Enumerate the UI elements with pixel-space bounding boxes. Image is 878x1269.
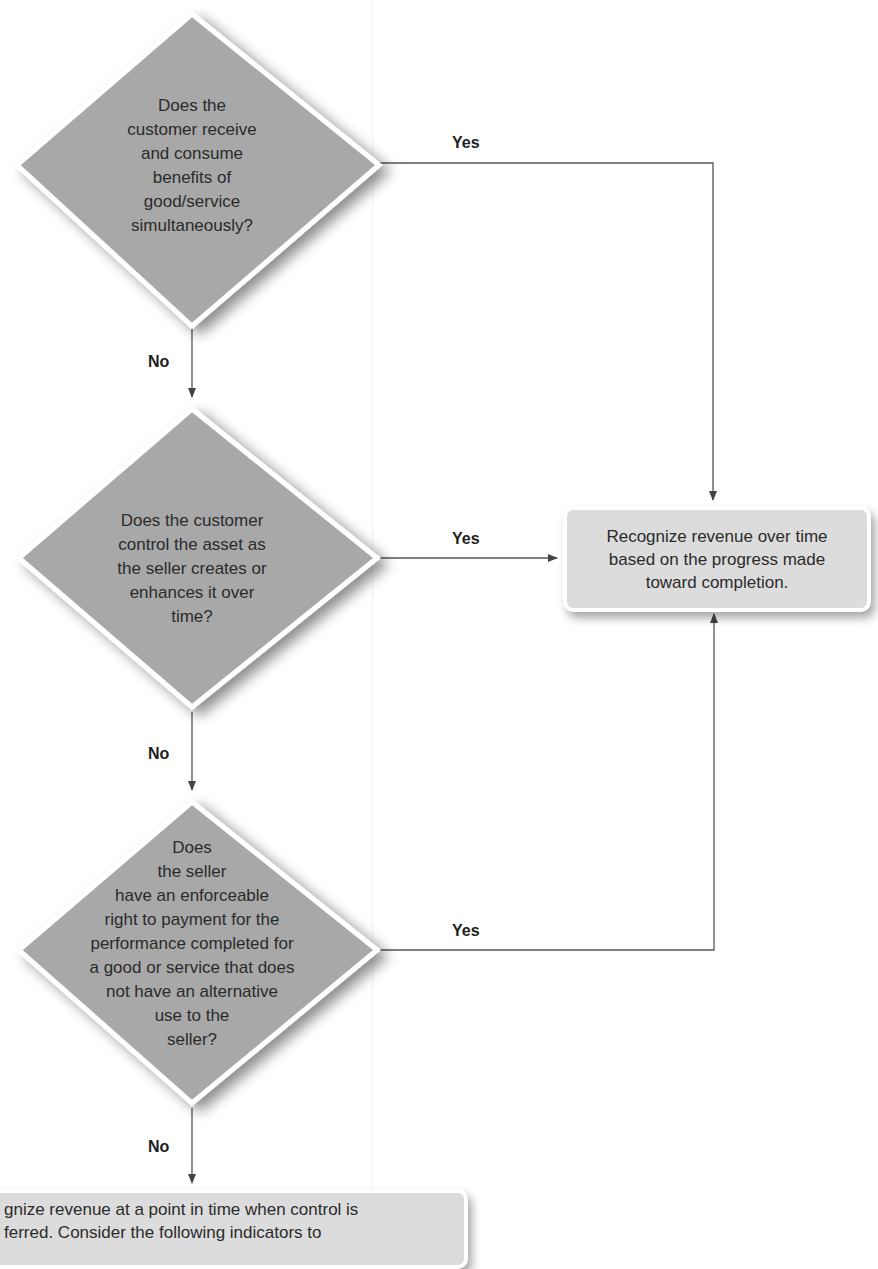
result-line: based on the progress made bbox=[567, 548, 867, 571]
result-line: gnize revenue at a point in time when co… bbox=[4, 1198, 464, 1221]
yes-label-q1: Yes bbox=[452, 134, 480, 152]
point-in-time-result-box: gnize revenue at a point in time when co… bbox=[0, 1189, 468, 1269]
q2-line: time? bbox=[82, 605, 302, 629]
q1-line: good/service bbox=[92, 190, 292, 214]
q2-line: enhances it over bbox=[82, 581, 302, 605]
yes-label-q3: Yes bbox=[452, 922, 480, 940]
q1-line: Does the bbox=[92, 94, 292, 118]
q1-line: benefits of bbox=[92, 166, 292, 190]
q3-line: a good or service that does bbox=[52, 956, 332, 980]
q3-line: seller? bbox=[52, 1028, 332, 1052]
result-line: ferred. Consider the following indicator… bbox=[4, 1221, 464, 1244]
q3-line: not have an alternative bbox=[52, 980, 332, 1004]
q3-line: use to the bbox=[52, 1004, 332, 1028]
q3-line: Does bbox=[52, 836, 332, 860]
question-text-q1: Does the customer receive and consume be… bbox=[92, 94, 292, 238]
q1-line: customer receive bbox=[92, 118, 292, 142]
yes-connector-q1 bbox=[378, 163, 713, 500]
q3-line: have an enforceable bbox=[52, 884, 332, 908]
q3-line: performance completed for bbox=[52, 932, 332, 956]
yes-connector-q3 bbox=[377, 614, 714, 950]
q1-line: simultaneously? bbox=[92, 214, 292, 238]
q1-line: and consume bbox=[92, 142, 292, 166]
no-label-q2: No bbox=[148, 745, 169, 763]
q2-line: Does the customer bbox=[82, 509, 302, 533]
q2-line: control the asset as bbox=[82, 533, 302, 557]
over-time-result-box: Recognize revenue over time based on the… bbox=[563, 506, 871, 612]
no-label-q1: No bbox=[148, 353, 169, 371]
yes-label-q2: Yes bbox=[452, 530, 480, 548]
q2-line: the seller creates or bbox=[82, 557, 302, 581]
result-line: Recognize revenue over time bbox=[567, 525, 867, 548]
q3-line: the seller bbox=[52, 860, 332, 884]
question-text-q2: Does the customer control the asset as t… bbox=[82, 509, 302, 629]
no-label-q3: No bbox=[148, 1138, 169, 1156]
result-line: toward completion. bbox=[567, 571, 867, 594]
q3-line: right to payment for the bbox=[52, 908, 332, 932]
question-text-q3: Does the seller have an enforceable righ… bbox=[52, 836, 332, 1052]
